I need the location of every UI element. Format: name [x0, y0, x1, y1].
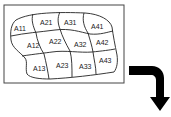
cell-label-a12: A12	[27, 42, 40, 49]
cell-label-a31: A31	[64, 19, 77, 26]
cell-label-a23: A23	[56, 62, 69, 69]
cell-label-a42: A42	[96, 39, 109, 46]
cell-label-a22: A22	[49, 38, 62, 45]
cell-label-a21: A21	[40, 19, 53, 26]
grid-diagram: A11 A21 A31 A41 A12 A22 A32 A42 A13 A23 …	[0, 0, 171, 117]
cell-label-a11: A11	[14, 25, 26, 32]
cell-label-a43: A43	[99, 57, 112, 64]
cell-label-a13: A13	[33, 65, 46, 72]
cell-label-a41: A41	[91, 23, 104, 30]
cell-label-a32: A32	[74, 41, 87, 48]
cell-label-a33: A33	[79, 63, 92, 70]
bent-arrow-icon	[129, 66, 170, 111]
